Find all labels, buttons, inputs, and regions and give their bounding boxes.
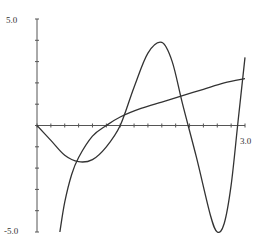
y-min-label: -5.0 (4, 226, 18, 236)
chart-canvas (0, 0, 264, 250)
x-max-label: 3.0 (240, 136, 251, 146)
axes (35, 19, 245, 232)
log-curve-line (60, 79, 245, 232)
oscillating-curve-line (37, 42, 245, 232)
series-group (37, 42, 245, 232)
y-max-label: 5.0 (6, 15, 17, 25)
